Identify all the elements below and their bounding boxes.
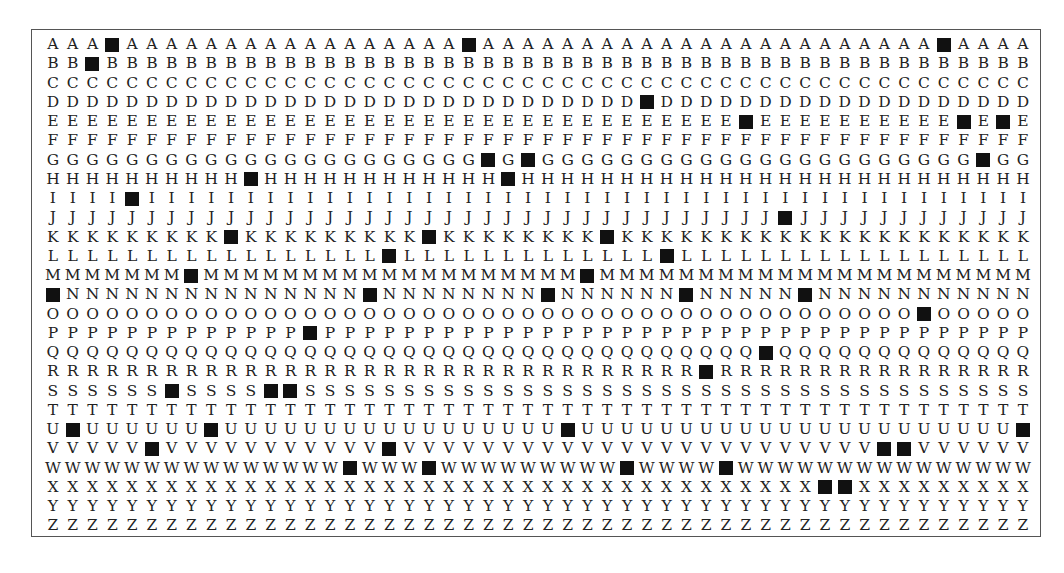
grid-letter: J (855, 208, 875, 227)
grid-letter: A (538, 35, 558, 54)
grid-letter: I (954, 189, 974, 208)
grid-letter: D (894, 93, 914, 112)
grid-letter: N (934, 285, 954, 304)
grid-letter: F (122, 131, 142, 150)
grid-letter: R (300, 362, 320, 381)
grid-letter: A (578, 35, 598, 54)
grid-letter: B (320, 54, 340, 73)
grid-letter: O (498, 305, 518, 324)
grid-letter: Q (1013, 343, 1033, 362)
grid-letter: T (637, 401, 657, 420)
grid-letter: T (439, 401, 459, 420)
grid-letter: W (637, 459, 657, 478)
grid-letter: E (578, 112, 598, 131)
grid-letter: Y (637, 497, 657, 516)
grid-letter: L (340, 247, 360, 266)
grid-letter: S (756, 382, 776, 401)
grid-letter: O (795, 305, 815, 324)
grid-letter: J (558, 208, 578, 227)
grid-letter: N (320, 285, 340, 304)
grid-letter: Q (617, 343, 637, 362)
grid-letter: A (182, 35, 202, 54)
grid-letter: X (874, 478, 894, 497)
grid-letter: H (63, 170, 83, 189)
grid-letter: M (340, 266, 360, 285)
grid-letter: M (855, 266, 875, 285)
grid-row-r: RRRRRRRRRRRRRRRRRRRRRRRRRRRRRRRRRRRRRRRR… (43, 362, 1033, 381)
grid-letter: C (1013, 74, 1033, 93)
grid-letter: N (281, 285, 301, 304)
grid-letter: G (201, 151, 221, 170)
grid-letter: P (380, 324, 400, 343)
grid-letter: T (696, 401, 716, 420)
grid-letter: W (1013, 459, 1033, 478)
grid-letter: R (201, 362, 221, 381)
grid-letter: E (815, 112, 835, 131)
grid-row-k: KKKKKKKKKKKKKKKKKKKKKKKKKKKKKKKKKKKKKKKK… (43, 228, 1033, 247)
grid-letter: D (815, 93, 835, 112)
grid-letter: Q (340, 343, 360, 362)
grid-letter: H (736, 170, 756, 189)
grid-letter: F (597, 131, 617, 150)
grid-letter: M (518, 266, 538, 285)
grid-letter: C (320, 74, 340, 93)
grid-letter: I (518, 189, 538, 208)
grid-letter: P (122, 324, 142, 343)
grid-letter: D (1013, 93, 1033, 112)
grid-letter: I (201, 189, 221, 208)
grid-letter: M (162, 266, 182, 285)
grid-letter: R (617, 362, 637, 381)
grid-letter: A (281, 35, 301, 54)
grid-letter: U (221, 420, 241, 439)
grid-letter: D (162, 93, 182, 112)
grid-letter: F (162, 131, 182, 150)
grid-letter: K (320, 228, 340, 247)
grid-letter: D (736, 93, 756, 112)
grid-letter: Y (677, 497, 697, 516)
grid-letter: E (894, 112, 914, 131)
grid-letter: C (894, 74, 914, 93)
grid-letter: W (459, 459, 479, 478)
grid-row-f: FFFFFFFFFFFFFFFFFFFFFFFFFFFFFFFFFFFFFFFF… (43, 131, 1033, 150)
grid-letter: T (657, 401, 677, 420)
grid-letter: U (775, 420, 795, 439)
grid-letter: P (43, 324, 63, 343)
grid-letter: N (498, 285, 518, 304)
grid-letter: B (439, 54, 459, 73)
grid-letter: U (162, 420, 182, 439)
grid-letter: X (162, 478, 182, 497)
grid-letter: H (597, 170, 617, 189)
grid-letter: B (874, 54, 894, 73)
grid-letter: G (835, 151, 855, 170)
grid-letter: Y (855, 497, 875, 516)
grid-letter: T (261, 401, 281, 420)
grid-letter: I (83, 189, 103, 208)
grid-letter: A (835, 35, 855, 54)
grid-letter: G (122, 151, 142, 170)
grid-letter: O (775, 305, 795, 324)
grid-letter: T (538, 401, 558, 420)
grid-letter: O (518, 305, 538, 324)
grid-letter: E (360, 112, 380, 131)
grid-letter: D (221, 93, 241, 112)
black-square (1013, 420, 1033, 439)
grid-letter: T (479, 401, 499, 420)
grid-letter: B (835, 54, 855, 73)
black-square (617, 459, 637, 478)
grid-letter: Q (815, 343, 835, 362)
grid-letter: L (300, 247, 320, 266)
grid-letter: J (439, 208, 459, 227)
grid-letter: V (716, 439, 736, 458)
grid-letter: P (914, 324, 934, 343)
grid-letter: U (914, 420, 934, 439)
grid-letter: G (142, 151, 162, 170)
grid-letter: W (954, 459, 974, 478)
grid-letter: X (914, 478, 934, 497)
grid-letter: C (43, 74, 63, 93)
black-square (479, 151, 499, 170)
grid-letter: E (479, 112, 499, 131)
grid-letter: Z (578, 516, 598, 535)
grid-letter: C (360, 74, 380, 93)
grid-letter: X (479, 478, 499, 497)
grid-letter: G (815, 151, 835, 170)
